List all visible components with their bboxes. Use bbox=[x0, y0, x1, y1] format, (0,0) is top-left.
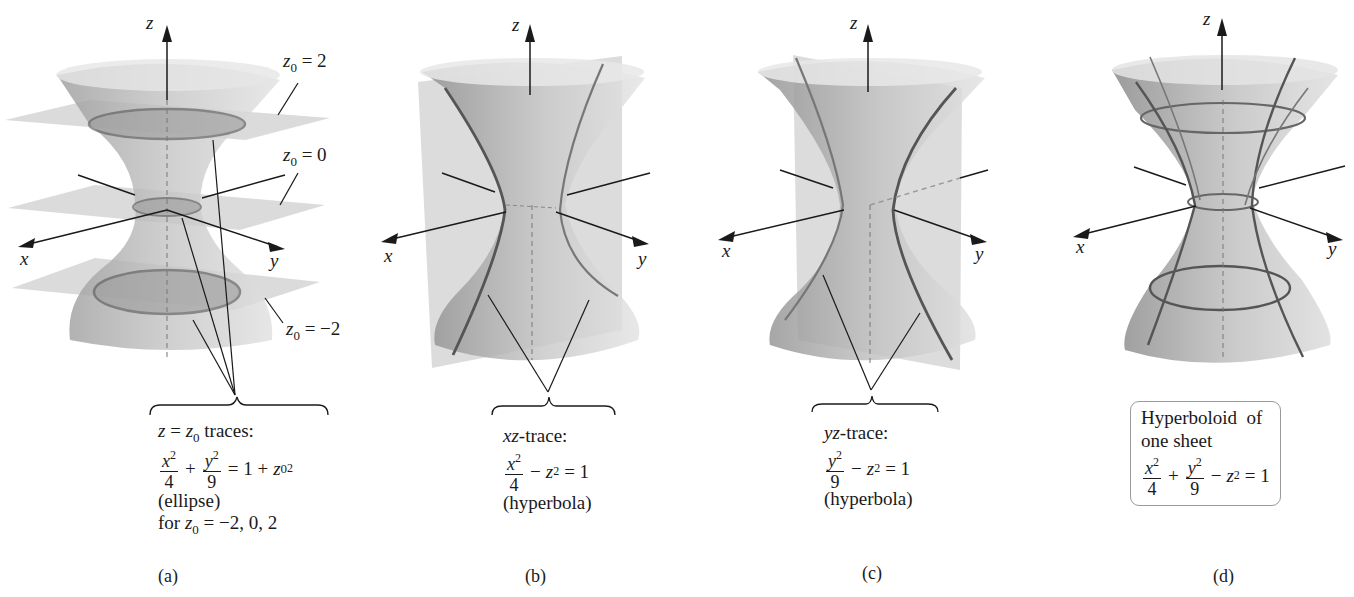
hyperbola-equation: y29 − z2 = 1 bbox=[824, 445, 915, 492]
z-axis-label: z bbox=[1203, 8, 1210, 30]
hyperboloid-definition-box: Hyperboloid of one sheet x24 + y29 − z2 … bbox=[1130, 401, 1281, 506]
x-axis-label: x bbox=[384, 245, 392, 267]
panel-b: z x y xz-trace: x24 − z2 = 1 (hyperbola)… bbox=[360, 0, 700, 597]
box-title-line2: one sheet bbox=[1141, 429, 1270, 452]
brace bbox=[150, 397, 328, 415]
ellipse-equation: x24 + y29 = 1 + z02 bbox=[158, 445, 293, 492]
z-axis-label: z bbox=[146, 12, 153, 34]
y-axis-label: y bbox=[1328, 238, 1336, 260]
x-axis-label: x bbox=[20, 248, 28, 270]
caption-c: (c) bbox=[862, 563, 882, 584]
y-axis-label: y bbox=[975, 243, 983, 265]
hyperboloid-yz-trace-figure bbox=[700, 0, 1040, 420]
panel-c: z x y yz-trace: y29 − z2 = 1 (hyperbola)… bbox=[700, 0, 1040, 597]
x-axis-label: x bbox=[1076, 236, 1084, 258]
brace bbox=[492, 397, 615, 415]
annotation-type: (hyperbola) bbox=[824, 488, 913, 510]
hyperboloid-equation: x24 + y29 − z2 = 1 bbox=[1141, 452, 1270, 499]
annotation-title: xz-trace: bbox=[503, 425, 567, 447]
annotation-values: for z0 = −2, 0, 2 bbox=[158, 512, 277, 541]
x-axis-label: x bbox=[722, 240, 730, 262]
annotation-type: (ellipse) bbox=[158, 490, 220, 512]
plane-label-zm2: z0 = −2 bbox=[286, 318, 340, 347]
annotation-type: (hyperbola) bbox=[503, 492, 592, 514]
z-axis-label: z bbox=[850, 12, 857, 34]
annotation-title: yz-trace: bbox=[824, 422, 888, 444]
caption-b: (b) bbox=[525, 566, 546, 587]
caption-d: (d) bbox=[1213, 566, 1234, 587]
hyperboloid-one-sheet-figure bbox=[1040, 0, 1354, 380]
brace bbox=[812, 396, 938, 412]
panel-d: z x y Hyperboloid of one sheet x24 + y29… bbox=[1040, 0, 1354, 597]
y-axis-label: y bbox=[638, 248, 646, 270]
caption-a: (a) bbox=[158, 566, 178, 587]
x-axis bbox=[1080, 206, 1196, 235]
box-title-line1: Hyperboloid of bbox=[1141, 406, 1270, 429]
plane-label-z0: z0 = 0 bbox=[283, 144, 327, 173]
plane-label-z2: z0 = 2 bbox=[283, 50, 327, 79]
hyperbola-equation: x24 − z2 = 1 bbox=[503, 448, 594, 495]
hyperboloid-xz-trace-figure bbox=[360, 0, 700, 420]
panel-a: z x y z0 = 2 z0 = 0 z0 = −2 z = z0 trace… bbox=[0, 0, 340, 597]
y-axis-label: y bbox=[270, 250, 278, 272]
z-axis-label: z bbox=[512, 14, 519, 36]
